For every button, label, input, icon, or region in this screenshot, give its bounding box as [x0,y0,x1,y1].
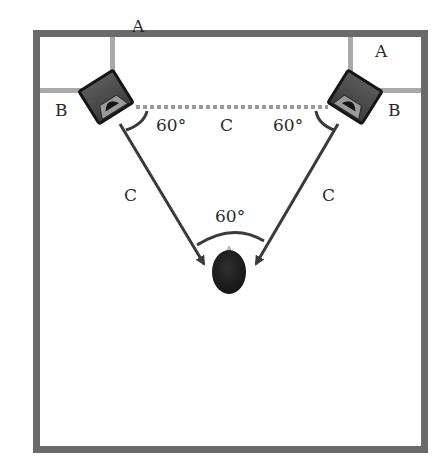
label-left-a: A [131,16,145,36]
left-side-wall-marker [40,88,82,93]
speaker-placement-diagram: A B A B 60° C 60° C C 60° [0,0,447,476]
right-side-wall-marker [378,88,421,93]
right-speaker [328,70,382,123]
label-listener-angle: 60° [215,206,245,226]
label-right-listening-distance: C [322,185,335,205]
left-speaker [79,70,133,123]
left-speaker-angle-arc [126,111,147,130]
label-speaker-spacing: C [220,115,233,135]
listener-angle-arc [197,232,264,245]
right-speaker-angle-arc [316,111,334,130]
label-left-b: B [55,100,68,120]
label-left-listening-distance: C [124,185,137,205]
label-right-b: B [388,100,401,120]
label-right-speaker-angle: 60° [273,115,303,135]
label-left-speaker-angle: 60° [156,115,186,135]
listener-head [212,245,246,294]
label-right-a: A [374,41,388,61]
